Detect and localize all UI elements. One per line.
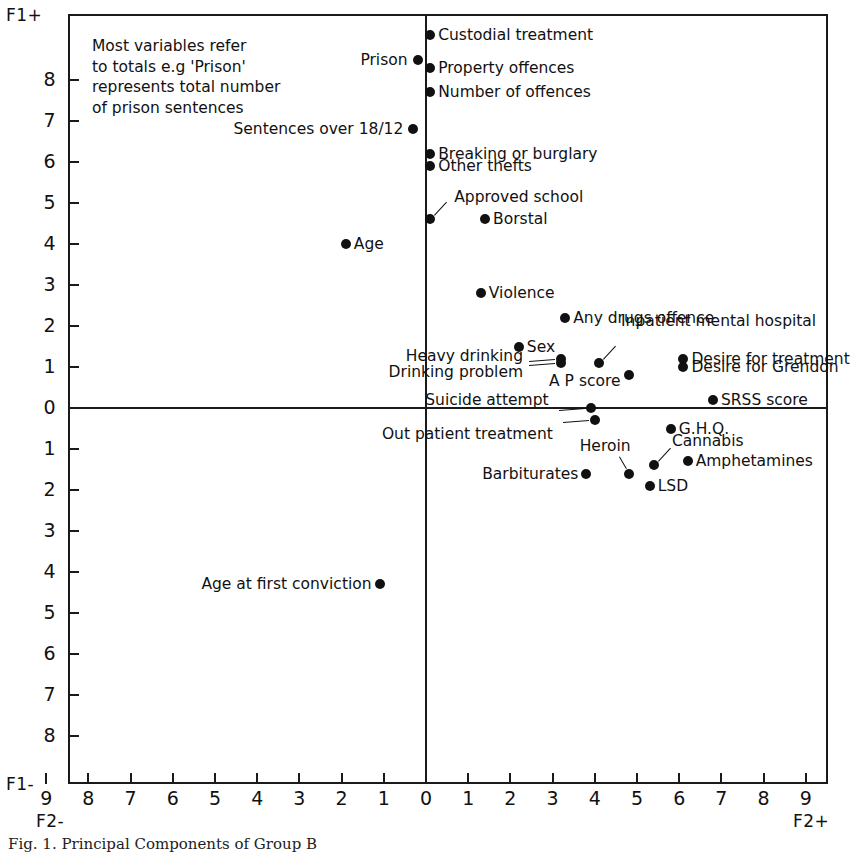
data-point[interactable] (425, 149, 435, 159)
x-tick-label: 8 (76, 789, 100, 808)
x-tick-label: 7 (119, 789, 143, 808)
y-tick-label: 5 (30, 193, 56, 212)
x-tick-label: 6 (667, 789, 691, 808)
y-tick (68, 612, 79, 614)
note-line: to totals e.g 'Prison' (92, 57, 342, 78)
y-tick-label: 0 (30, 398, 56, 417)
data-point[interactable] (624, 469, 634, 479)
y-tick (68, 161, 79, 163)
data-point-label: Drinking problem (389, 364, 523, 380)
y-tick-label: 8 (30, 70, 56, 89)
x-tick (467, 773, 469, 784)
x-tick (509, 773, 511, 784)
data-point[interactable] (556, 358, 566, 368)
x-tick (341, 773, 343, 784)
data-point-label: LSD (658, 478, 688, 494)
y-tick-label: 4 (30, 562, 56, 581)
data-point[interactable] (624, 370, 634, 380)
x-tick-label: 9 (34, 789, 58, 808)
data-point-label: Barbiturates (482, 466, 578, 482)
x-tick (45, 773, 47, 784)
data-point-label: Desire for Grendon (691, 359, 838, 375)
data-point[interactable] (341, 239, 351, 249)
data-point-label: Age (354, 236, 384, 252)
x-tick-label: 9 (794, 789, 818, 808)
y-tick-label: 4 (30, 234, 56, 253)
y-tick (68, 407, 79, 409)
data-point[interactable] (425, 63, 435, 73)
data-point[interactable] (375, 579, 385, 589)
y-tick-label: 3 (30, 521, 56, 540)
data-point[interactable] (683, 456, 693, 466)
x-tick-label: 4 (583, 789, 607, 808)
data-point-label: Age at first conviction (201, 576, 371, 592)
y-tick (68, 735, 79, 737)
y-tick-label: 7 (30, 685, 56, 704)
axis-label-f2-positive: F2+ (793, 813, 829, 830)
axis-label-f1-positive: F1+ (6, 7, 42, 24)
x-tick (256, 773, 258, 784)
x-tick (594, 773, 596, 784)
data-point[interactable] (708, 395, 718, 405)
data-point-label: Heroin (580, 438, 631, 454)
data-point[interactable] (413, 55, 423, 65)
x-tick (87, 773, 89, 784)
y-tick-label: 3 (30, 275, 56, 294)
x-tick-label: 1 (456, 789, 480, 808)
data-point-label: Sentences over 18/12 (233, 121, 403, 137)
y-tick (68, 489, 79, 491)
y-tick-label: 7 (30, 111, 56, 130)
x-tick-label: 8 (752, 789, 776, 808)
data-point[interactable] (476, 288, 486, 298)
x-tick (552, 773, 554, 784)
y-tick-label: 1 (30, 357, 56, 376)
x-tick-label: 1 (372, 789, 396, 808)
y-tick-label: 8 (30, 726, 56, 745)
data-point[interactable] (581, 469, 591, 479)
data-point-label: Inpatient mental hospital (621, 313, 816, 329)
x-tick-label: 4 (245, 789, 269, 808)
data-point-label: Heavy drinking (406, 348, 523, 364)
axis-label-f2-negative: F2- (36, 813, 64, 830)
y-tick (68, 571, 79, 573)
x-tick-label: 7 (709, 789, 733, 808)
y-tick (68, 448, 79, 450)
figure-caption: Fig. 1. Principal Components of Group B (8, 836, 848, 852)
y-tick (68, 120, 79, 122)
x-tick (172, 773, 174, 784)
x-tick-label: 0 (414, 789, 438, 808)
x-tick (636, 773, 638, 784)
y-tick (68, 284, 79, 286)
data-point-label: Violence (489, 285, 555, 301)
data-point-label: Cannabis (672, 433, 744, 449)
x-tick (720, 773, 722, 784)
explanatory-note: Most variables referto totals e.g 'Priso… (92, 36, 342, 118)
data-point[interactable] (645, 481, 655, 491)
data-point[interactable] (560, 313, 570, 323)
x-tick-label: 5 (625, 789, 649, 808)
note-line: of prison sentences (92, 98, 342, 119)
x-tick (214, 773, 216, 784)
data-point-label: Borstal (493, 211, 547, 227)
data-point-label: Custodial treatment (438, 27, 593, 43)
data-point-label: Property offences (438, 60, 574, 76)
x-tick-label: 6 (161, 789, 185, 808)
data-point-label: Suicide attempt (425, 392, 548, 408)
data-point-label: Approved school (454, 189, 583, 205)
data-point-label: Prison (360, 52, 407, 68)
x-tick (805, 773, 807, 784)
y-tick (68, 530, 79, 532)
data-point[interactable] (586, 403, 596, 413)
y-tick (68, 202, 79, 204)
y-tick-label: 1 (30, 439, 56, 458)
x-tick (130, 773, 132, 784)
data-point-label: Number of offences (438, 84, 591, 100)
y-tick (68, 653, 79, 655)
x-tick-label: 3 (541, 789, 565, 808)
x-tick (383, 773, 385, 784)
data-point-label: Out patient treatment (382, 426, 553, 442)
y-tick (68, 79, 79, 81)
data-point-label: Other thefts (438, 158, 532, 174)
y-tick-label: 2 (30, 480, 56, 499)
y-tick (68, 325, 79, 327)
